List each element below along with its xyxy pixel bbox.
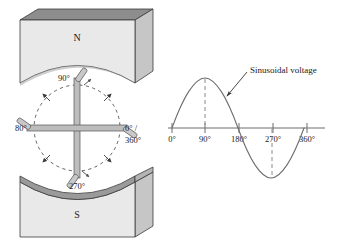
north-pole-magnet: N [20, 9, 153, 86]
coil-tip-top [75, 67, 88, 82]
angle-label-0-line1: 0° / [125, 123, 138, 133]
angle-label-360-line2: 360° [125, 135, 141, 145]
north-magnet-side-face [135, 9, 153, 83]
x-tick-label-270: 270° [265, 134, 281, 144]
south-pole-magnet: S [20, 167, 153, 237]
sinusoidal-voltage-label: Sinusoidal voltage [250, 65, 317, 75]
figure-root: N S [0, 0, 346, 249]
generator-diagram: N S [15, 9, 153, 237]
sine-wave-graph: 0° 90° 180° 270° 360° Sinusoidal voltage [168, 65, 325, 178]
coil-horizontal-bar [27, 125, 127, 131]
rotation-arrow-sw [44, 155, 50, 161]
x-tick-label-0: 0° [168, 134, 176, 144]
angle-label-180: 80° [15, 123, 27, 133]
south-magnet-side-face [135, 172, 153, 237]
x-tick-label-90: 90° [199, 134, 211, 144]
x-tick-label-180: 180° [231, 134, 247, 144]
south-pole-label: S [74, 209, 80, 220]
coil-arrow-bottom [82, 171, 88, 176]
rotation-arrow-nw [44, 95, 50, 101]
north-magnet-front-face [20, 20, 135, 83]
annotation-leader-line [227, 72, 247, 96]
angle-label-90: 90° [58, 73, 70, 83]
figure-canvas: N S [0, 0, 346, 249]
rotating-coil [16, 67, 138, 189]
rotation-arrow-ne [104, 95, 110, 101]
coil-arrow-top [84, 80, 90, 85]
rotation-arrow-se [104, 155, 110, 161]
north-pole-label: N [73, 32, 80, 43]
angle-label-270: 270° [69, 181, 85, 191]
north-magnet-top-face [20, 9, 153, 20]
